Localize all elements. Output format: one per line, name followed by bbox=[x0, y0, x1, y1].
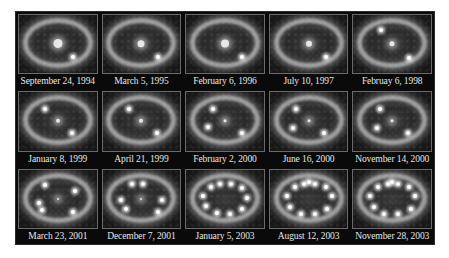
hot-spot bbox=[382, 212, 386, 216]
supernova-photo bbox=[352, 91, 432, 151]
image-panel: July 10, 1997 bbox=[267, 12, 351, 89]
hot-spot bbox=[379, 28, 383, 32]
hot-spot bbox=[130, 182, 134, 186]
hot-spot bbox=[302, 182, 306, 186]
ring-shape bbox=[23, 18, 93, 68]
date-caption: July 10, 1997 bbox=[269, 74, 349, 89]
central-core bbox=[221, 40, 229, 48]
hot-spot bbox=[390, 180, 394, 184]
hot-spot bbox=[330, 194, 334, 198]
image-panel: November 28, 2003 bbox=[350, 167, 434, 244]
supernova-photo bbox=[18, 14, 98, 74]
hot-spot bbox=[322, 131, 326, 135]
hot-spot bbox=[291, 126, 295, 130]
hot-spot bbox=[127, 107, 131, 111]
image-panel: December 7, 2001 bbox=[100, 167, 184, 244]
ring-shape bbox=[190, 18, 260, 68]
date-caption: January 8, 1999 bbox=[18, 152, 98, 167]
hot-spot bbox=[285, 194, 289, 198]
supernova-photo bbox=[102, 91, 182, 151]
central-core bbox=[391, 120, 394, 123]
date-caption: June 16, 2000 bbox=[269, 152, 349, 167]
ring-shape bbox=[23, 95, 93, 145]
date-caption: February 6, 1996 bbox=[185, 74, 265, 89]
ring-shape bbox=[357, 95, 427, 145]
hot-spot bbox=[409, 207, 413, 211]
supernova-photo bbox=[352, 14, 432, 74]
date-caption: December 7, 2001 bbox=[102, 229, 182, 244]
image-panel: January 8, 1999 bbox=[16, 89, 100, 166]
ring-shape bbox=[23, 173, 93, 223]
supernova-photo bbox=[352, 169, 432, 229]
hot-spot bbox=[156, 210, 160, 214]
central-core bbox=[138, 40, 145, 47]
central-core bbox=[306, 41, 312, 47]
hot-spot bbox=[324, 185, 328, 189]
central-core bbox=[307, 120, 310, 123]
hot-spot bbox=[201, 194, 205, 198]
hot-spot bbox=[209, 185, 213, 189]
hot-spot bbox=[245, 196, 249, 200]
ring-shape bbox=[274, 18, 344, 68]
supernova-photo bbox=[269, 169, 349, 229]
hot-spot bbox=[313, 212, 317, 216]
hot-spot bbox=[229, 182, 233, 186]
central-core bbox=[223, 120, 226, 123]
hot-spot bbox=[37, 201, 41, 205]
hot-spot bbox=[141, 182, 145, 186]
image-panel: January 5, 2003 bbox=[183, 167, 267, 244]
hot-spot bbox=[218, 182, 222, 186]
supernova-photo bbox=[18, 169, 98, 229]
date-caption: August 12, 2003 bbox=[269, 229, 349, 244]
hot-spot bbox=[119, 198, 123, 202]
hot-spot bbox=[71, 210, 75, 214]
ring-shape bbox=[106, 95, 176, 145]
supernova-photo bbox=[102, 14, 182, 74]
date-caption: February 2, 2000 bbox=[185, 152, 265, 167]
date-caption: September 24, 1994 bbox=[18, 74, 98, 89]
hot-spot bbox=[228, 212, 232, 216]
date-caption: November 28, 2003 bbox=[352, 229, 432, 244]
central-core bbox=[53, 39, 62, 48]
hot-spot bbox=[378, 107, 382, 111]
image-panel: February 6, 1996 bbox=[183, 12, 267, 89]
supernova-photo bbox=[185, 169, 265, 229]
central-core bbox=[56, 119, 60, 123]
date-caption: January 5, 2003 bbox=[185, 229, 265, 244]
date-caption: March 23, 2001 bbox=[18, 229, 98, 244]
central-core bbox=[390, 41, 395, 46]
date-caption: November 14, 2000 bbox=[352, 152, 432, 167]
date-caption: Februay 6, 1998 bbox=[352, 74, 432, 89]
ring-shape bbox=[357, 173, 427, 223]
date-caption: March 5, 1995 bbox=[102, 74, 182, 89]
hot-spot bbox=[294, 107, 298, 111]
image-panel: April 21, 1999 bbox=[100, 89, 184, 166]
image-panel: March 5, 1995 bbox=[100, 12, 184, 89]
hot-spot bbox=[396, 212, 400, 216]
image-panel: June 16, 2000 bbox=[267, 89, 351, 166]
hot-spot bbox=[413, 194, 417, 198]
hot-spot bbox=[73, 189, 77, 193]
supernova-photo bbox=[269, 14, 349, 74]
image-panel: August 12, 2003 bbox=[267, 167, 351, 244]
hot-spot bbox=[293, 185, 297, 189]
hot-spot bbox=[240, 207, 244, 211]
hot-spot bbox=[406, 131, 410, 135]
central-core bbox=[139, 119, 143, 123]
hot-spot bbox=[288, 205, 292, 209]
hot-spot bbox=[204, 204, 208, 208]
hot-spot bbox=[325, 207, 329, 211]
hot-spot bbox=[313, 182, 317, 186]
ring-shape bbox=[357, 18, 427, 68]
hot-spot bbox=[307, 180, 311, 184]
image-panel: September 24, 1994 bbox=[16, 12, 100, 89]
hot-spot bbox=[299, 212, 303, 216]
hot-spot bbox=[156, 55, 160, 59]
hot-spot bbox=[386, 182, 390, 186]
hot-spot bbox=[40, 208, 44, 212]
hot-spot bbox=[240, 131, 244, 135]
ring-shape bbox=[106, 173, 176, 223]
hot-spot bbox=[324, 55, 328, 59]
hot-spot bbox=[240, 55, 244, 59]
image-panel: February 2, 2000 bbox=[183, 89, 267, 166]
